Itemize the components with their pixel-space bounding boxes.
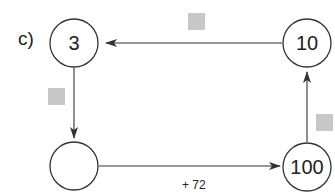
hidden-operation-box-top[interactable] — [188, 13, 205, 30]
node-value-bottom-left[interactable] — [50, 142, 98, 190]
node-value-top-left: 3 — [50, 19, 98, 67]
node-value-bottom-right: 100 — [283, 143, 331, 191]
hidden-operation-box-left[interactable] — [48, 88, 65, 105]
operation-label-bottom: + 72 — [182, 178, 206, 192]
hidden-operation-box-right[interactable] — [316, 114, 333, 131]
node-value-top-right: 10 — [283, 19, 331, 67]
part-label: c) — [18, 28, 34, 50]
